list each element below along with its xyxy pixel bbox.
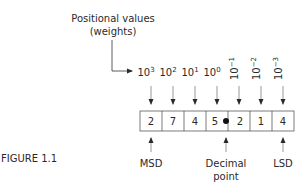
digit-1: 7 xyxy=(170,116,176,127)
msd-label: MSD xyxy=(140,158,163,169)
digit-3: 5 xyxy=(212,116,218,127)
digit-6: 4 xyxy=(280,116,286,127)
weight-10-0: 100 xyxy=(203,66,220,78)
weights-label: (weights) xyxy=(90,26,137,37)
digit-2: 4 xyxy=(192,116,198,127)
weight-10-minus-2: 10−2 xyxy=(250,57,262,80)
weight-10-3: 103 xyxy=(137,66,154,78)
positional-values-diagram: Positional values (weights) 103 102 101 … xyxy=(0,0,301,192)
weight-10-1: 101 xyxy=(181,66,198,78)
weight-10-2: 102 xyxy=(159,66,176,78)
digit-4: 2 xyxy=(237,116,243,127)
positional-values-label: Positional values xyxy=(71,13,155,24)
figure-caption: FIGURE 1.1 xyxy=(1,153,57,164)
svg-text:100: 100 xyxy=(203,66,220,78)
weight-10-minus-3: 10−3 xyxy=(272,57,284,80)
svg-text:10−1: 10−1 xyxy=(228,57,240,80)
weight-10-minus-1: 10−1 xyxy=(228,57,240,80)
svg-text:10−2: 10−2 xyxy=(250,57,262,80)
decimal-point-dot xyxy=(223,118,229,124)
digit-0: 2 xyxy=(148,116,154,127)
svg-text:10−3: 10−3 xyxy=(272,57,284,80)
decimal-point-label: Decimal xyxy=(206,158,247,169)
weight-arrows xyxy=(151,86,283,104)
decimal-point-label-line2: point xyxy=(213,171,239,182)
svg-text:101: 101 xyxy=(181,66,198,78)
annotation-arrows xyxy=(151,138,283,152)
svg-text:102: 102 xyxy=(159,66,176,78)
svg-text:103: 103 xyxy=(137,66,154,78)
digit-5: 1 xyxy=(258,116,264,127)
pointer-arrow xyxy=(112,40,132,71)
lsd-label: LSD xyxy=(273,158,293,169)
